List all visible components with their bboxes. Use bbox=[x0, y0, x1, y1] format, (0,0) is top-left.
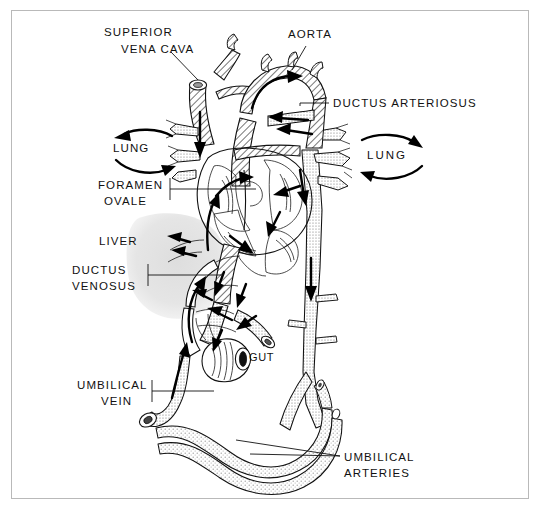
label-ductus-venosus-line2: VENOSUS bbox=[72, 280, 136, 292]
arrow-la-inflow bbox=[273, 186, 300, 197]
arrow-left-ventricle bbox=[266, 212, 280, 237]
label-umbilical-vein-line1: UMBILICAL bbox=[77, 379, 148, 391]
label-ductus-venosus-line1: DUCTUS bbox=[72, 264, 127, 276]
label-superior-vena-cava-line2: VENA CAVA bbox=[121, 43, 194, 55]
figure-page: SUPERIOR VENA CAVA AORTA DUCTUS ARTERIOS… bbox=[0, 0, 544, 522]
superior-vena-cava bbox=[189, 80, 214, 146]
arrow-lung-right-out bbox=[362, 135, 423, 148]
arrow-lung-left-in bbox=[116, 160, 176, 176]
label-umbilical-arteries-line1: UMBILICAL bbox=[344, 451, 415, 463]
label-superior-vena-cava-line1: SUPERIOR bbox=[104, 26, 173, 38]
umbilical-vein bbox=[137, 356, 190, 430]
label-aorta: AORTA bbox=[288, 28, 332, 40]
label-gut: GUT bbox=[249, 351, 274, 363]
label-lung-right: LUNG bbox=[367, 149, 407, 161]
label-liver: LIVER bbox=[99, 235, 138, 247]
label-ductus-arteriosus: DUCTUS ARTERIOSUS bbox=[333, 97, 477, 109]
label-umbilical-arteries-line2: ARTERIES bbox=[344, 467, 410, 479]
label-lung-left: LUNG bbox=[113, 142, 149, 154]
label-foramen-ovale-line2: OVALE bbox=[104, 195, 147, 207]
leader-superior-vena-cava bbox=[171, 52, 198, 80]
arrow-lung-left-out bbox=[114, 130, 172, 141]
label-foramen-ovale-line1: FORAMEN bbox=[98, 179, 163, 191]
arrow-lung-right-in bbox=[360, 166, 422, 182]
fetal-circulation-illustration: SUPERIOR VENA CAVA AORTA DUCTUS ARTERIOS… bbox=[0, 0, 544, 522]
label-umbilical-vein-line2: VEIN bbox=[101, 395, 132, 407]
left-lung-vessels bbox=[166, 120, 200, 182]
arrow-ivc-lower bbox=[236, 284, 246, 308]
